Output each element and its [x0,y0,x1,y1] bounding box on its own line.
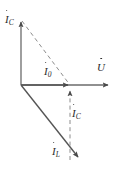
phasor-dot-ic-top: I [5,14,9,25]
overdot-icon [53,142,55,144]
label-u: U [97,62,105,75]
label-i0: I0 [44,66,51,79]
phasor-dot-il: I [52,146,56,157]
overdot-icon [100,58,102,60]
label-ic-mid-subscript: C [76,112,81,121]
label-il-subscript: L [56,150,60,159]
label-il: IL [52,146,60,159]
label-i0-symbol: I [44,65,48,77]
overdot-icon [6,10,8,12]
overdot-icon [45,62,47,64]
phasor-dot-ic-mid: I [72,108,76,119]
phasor-diagram-figure: IC I0 U IC IL [0,0,118,172]
label-ic-mid-symbol: I [72,107,76,119]
label-il-symbol: I [52,145,56,157]
phasor-dot-i0: I [44,66,48,77]
label-i0-subscript: 0 [48,70,52,79]
label-ic-top-subscript: C [9,18,14,27]
label-ic-mid: IC [72,108,81,121]
phasor-dot-u: U [97,62,105,73]
overdot-icon [73,104,75,106]
label-ic-top-symbol: I [5,13,9,25]
vector-il [21,85,78,157]
label-ic-top: IC [5,14,14,27]
label-u-symbol: U [97,61,105,73]
